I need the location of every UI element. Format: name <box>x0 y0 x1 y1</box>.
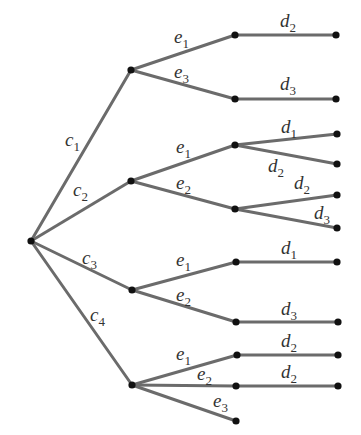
edge-c2e1-c2e1d2 <box>235 145 337 164</box>
edge-label: d2 <box>281 361 297 386</box>
edge-label: d2 <box>280 10 296 35</box>
node-c2e1 <box>231 141 238 148</box>
node-c4e2d2 <box>334 382 341 389</box>
edge-label: e1 <box>176 136 191 161</box>
node-c1e1 <box>231 31 238 38</box>
edge-label: e1 <box>176 249 191 274</box>
node-root <box>27 237 34 244</box>
node-c1 <box>127 66 134 73</box>
node-c1e3d3 <box>332 95 339 102</box>
node-c2 <box>127 177 134 184</box>
edge-label: d3 <box>281 298 297 323</box>
edge-label: d2 <box>281 330 297 355</box>
edge-root-c1 <box>31 70 131 241</box>
edge-label: e1 <box>176 343 191 368</box>
edge-label: d2 <box>268 155 284 180</box>
edge-label: c1 <box>65 129 80 154</box>
edge-label: d2 <box>294 172 310 197</box>
edge-label: d3 <box>280 73 296 98</box>
node-c4e1 <box>233 351 240 358</box>
edge-label: c4 <box>90 304 105 329</box>
node-c3e2 <box>232 318 239 325</box>
node-c4 <box>128 381 135 388</box>
edge-label: d1 <box>281 237 297 262</box>
node-c4e1d2 <box>334 351 341 358</box>
node-c3e2d3 <box>334 318 341 325</box>
node-c2e2 <box>231 205 238 212</box>
node-c4e2 <box>232 382 239 389</box>
node-c2e2d3 <box>333 224 340 231</box>
edge-c4-c4e2 <box>132 385 236 386</box>
node-c3 <box>128 286 135 293</box>
node-c1e1d2 <box>332 31 339 38</box>
node-c2e2d2 <box>333 191 340 198</box>
node-c1e3 <box>231 95 238 102</box>
edge-label: d1 <box>281 116 297 141</box>
node-c2e1d2 <box>333 160 340 167</box>
decision-tree-diagram: c1c2c3c4e1e3e1e2e1e2e1e2e3d2d3d1d2d2d3d1… <box>0 0 361 435</box>
node-c2e1d1 <box>333 130 340 137</box>
edge-label: c2 <box>73 179 88 204</box>
edge-label: e3 <box>213 390 228 415</box>
edge-label: e1 <box>174 26 189 51</box>
node-c3e1d1 <box>333 258 340 265</box>
node-c4e3 <box>232 417 239 424</box>
edge-labels: c1c2c3c4e1e3e1e2e1e2e1e2e3d2d3d1d2d2d3d1… <box>65 10 330 415</box>
node-c3e1 <box>232 258 239 265</box>
